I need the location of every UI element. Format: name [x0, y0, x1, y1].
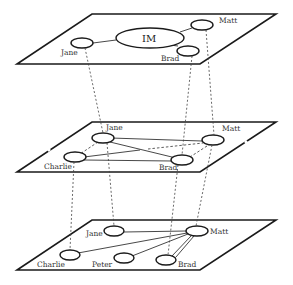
- node-bottom-jane[interactable]: [104, 226, 124, 236]
- node-bottom-charlie[interactable]: [60, 250, 80, 260]
- multilayer-network-diagram: Jane Matt Charlie Peter Brad Jane Matt C…: [0, 0, 293, 285]
- label-top-matt: Matt: [219, 16, 237, 25]
- node-bottom-peter[interactable]: [114, 253, 134, 263]
- label-middle-brad: Brad: [159, 163, 178, 172]
- label-middle-matt: Matt: [222, 124, 240, 133]
- node-top-matt[interactable]: [191, 20, 213, 30]
- node-middle-jane[interactable]: [92, 133, 114, 143]
- label-middle-jane: Jane: [105, 123, 123, 132]
- label-bottom-charlie: Charlie: [37, 260, 65, 269]
- label-bottom-brad: Brad: [178, 260, 197, 269]
- layer-middle: Jane Matt Charlie Brad: [17, 122, 276, 172]
- label-bottom-matt: Matt: [210, 227, 228, 236]
- label-top-jane: Jane: [60, 48, 78, 57]
- label-bottom-peter: Peter: [92, 260, 113, 269]
- node-bottom-matt[interactable]: [186, 226, 208, 236]
- label-middle-charlie: Charlie: [44, 162, 72, 171]
- node-middle-charlie[interactable]: [64, 152, 86, 162]
- node-top-brad[interactable]: [177, 46, 199, 56]
- label-bottom-jane: Jane: [85, 229, 103, 238]
- node-top-jane[interactable]: [71, 38, 93, 48]
- label-top-im: IM: [142, 33, 156, 44]
- node-bottom-brad[interactable]: [156, 255, 176, 265]
- layer-top: IM Jane Matt Brad: [17, 14, 276, 64]
- layer-bottom: Jane Matt Charlie Peter Brad: [17, 220, 276, 270]
- label-top-brad: Brad: [161, 54, 180, 63]
- node-middle-matt[interactable]: [202, 135, 224, 145]
